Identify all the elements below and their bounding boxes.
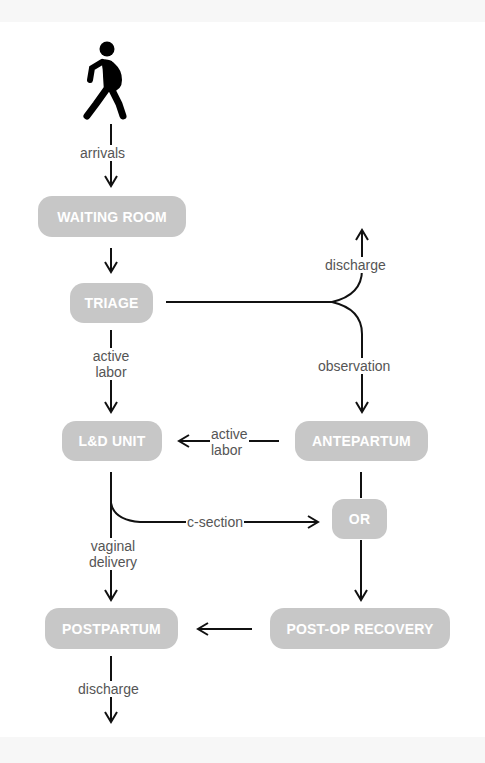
node-triage: TRIAGE [70,283,153,323]
node-antepartum-label: ANTEPARTUM [312,433,411,449]
label-active-labor-triage-line1: active [89,348,133,364]
node-postpartum-label: POSTPARTUM [62,621,161,637]
node-or: OR [332,499,387,539]
label-postpartum-discharge: discharge [77,681,140,697]
pregnant-person-walking-icon [82,40,130,122]
label-active-labor-triage-line2: labor [89,364,133,380]
node-ld-unit: L&D UNIT [62,421,162,461]
label-vaginal-delivery: vaginal delivery [84,538,142,570]
label-c-section: c-section [186,514,244,530]
node-waiting-room: WAITING ROOM [38,196,186,237]
label-observation: observation [317,358,391,374]
arrow-observation [332,302,362,412]
label-active-labor-antepartum-line2: labor [211,442,248,458]
label-triage-discharge: discharge [324,257,387,273]
node-postpartum: POSTPARTUM [45,608,178,649]
node-triage-label: TRIAGE [84,295,138,311]
node-waiting-room-label: WAITING ROOM [57,209,167,225]
label-vaginal-delivery-line2: delivery [85,554,141,570]
label-arrivals: arrivals [79,145,126,161]
label-vaginal-delivery-line1: vaginal [85,538,141,554]
label-active-labor-antepartum-line1: active [211,426,248,442]
node-antepartum: ANTEPARTUM [295,421,428,461]
node-or-label: OR [349,511,370,527]
node-post-op-recovery-label: POST-OP RECOVERY [286,621,433,637]
label-active-labor-triage: active labor [88,348,134,380]
node-ld-unit-label: L&D UNIT [79,433,146,449]
label-active-labor-antepartum: active labor [210,426,249,458]
node-post-op-recovery: POST-OP RECOVERY [270,608,450,649]
